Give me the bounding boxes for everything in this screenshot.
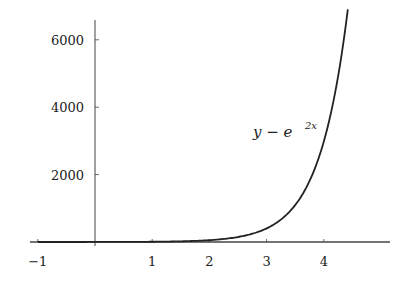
y-tick-label: 2000 <box>51 168 84 183</box>
y-ticks: 200040006000 <box>51 33 99 183</box>
y-tick-label: 6000 <box>51 33 84 48</box>
x-tick-label: 3 <box>262 254 270 269</box>
annotation-exponent: 2x <box>304 120 317 131</box>
x-tick-label: −1 <box>28 254 47 269</box>
annotation-base: y − e <box>252 123 293 141</box>
x-tick-label: 1 <box>148 254 156 269</box>
exp-curve <box>38 9 348 242</box>
x-tick-label: 2 <box>205 254 213 269</box>
x-tick-label: 4 <box>320 254 328 269</box>
curve-annotation: y − e 2x <box>252 120 317 141</box>
y-tick-label: 4000 <box>51 100 84 115</box>
x-ticks: −11234 <box>28 239 328 269</box>
chart: −11234 200040006000 y − e 2x <box>0 0 408 295</box>
